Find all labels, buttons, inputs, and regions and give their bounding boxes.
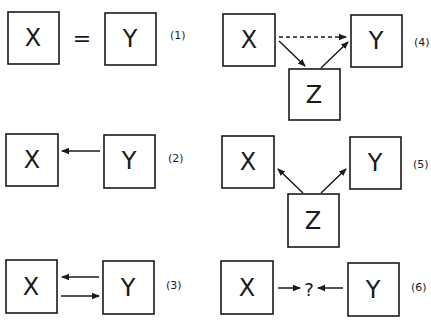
- node-z-label: Z: [306, 81, 322, 109]
- diagram-tag: (5): [413, 158, 429, 171]
- diagram-6: X Y ? (6): [221, 261, 427, 316]
- node-y-label: Y: [368, 27, 384, 55]
- node-x-label: X: [25, 24, 41, 52]
- node-x-label: X: [24, 146, 40, 174]
- node-z-label: Z: [305, 207, 321, 235]
- equals-sign: =: [73, 26, 91, 51]
- diagram-2: X Y (2): [6, 134, 184, 188]
- diagram-tag: (4): [414, 36, 430, 49]
- diagram-tag: (1): [170, 29, 186, 42]
- arrow-z-to-y: [321, 169, 346, 193]
- diagram-4: X Y Z (4): [223, 14, 430, 120]
- node-y-label: Y: [120, 274, 136, 302]
- arrow-x-to-z: [279, 41, 305, 66]
- unknown-mark: ?: [304, 279, 314, 300]
- diagram-3: X Y (3): [6, 260, 182, 314]
- diagram-tag: (3): [166, 279, 182, 292]
- node-y-label: Y: [121, 147, 137, 175]
- node-y-label: Y: [365, 276, 381, 304]
- node-x-label: X: [23, 273, 39, 301]
- node-x-label: X: [239, 274, 255, 302]
- diagram-5: X Y Z (5): [222, 136, 429, 247]
- diagram-tag: (6): [411, 281, 427, 294]
- causal-diagrams-figure: X = Y (1) X Y (2) X Y (3) X Y Z (4): [0, 0, 431, 322]
- node-x-label: X: [240, 148, 256, 176]
- node-x-label: X: [241, 26, 257, 54]
- arrow-z-to-y: [321, 42, 348, 68]
- node-y-label: Y: [367, 149, 383, 177]
- diagram-1: X = Y (1): [8, 12, 186, 65]
- diagram-tag: (2): [168, 152, 184, 165]
- arrow-z-to-x: [278, 169, 303, 193]
- node-y-label: Y: [122, 25, 138, 53]
